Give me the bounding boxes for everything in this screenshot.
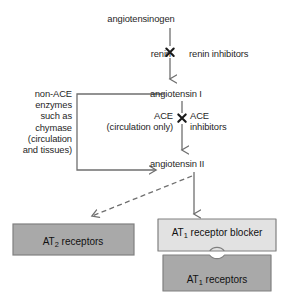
nonace-line-4: chymase [35, 122, 72, 133]
block-marker-ace-icon [178, 114, 185, 121]
nonace-line-3: such as [40, 110, 72, 121]
ace-inhibitors-line-1: ACE [190, 110, 209, 121]
node-angiotensinogen: angiotensinogen [0, 13, 282, 24]
nonace-line-6: and tissues) [23, 144, 72, 155]
node-angiotensin-2: angiotensin II [141, 158, 204, 169]
label-renin-enzyme: renin [86, 48, 171, 59]
label-at1-receptor-blocker: AT1 receptor blocker [158, 227, 276, 238]
nonace-line-2: enzymes [35, 99, 72, 110]
at2-prefix: AT [43, 236, 55, 247]
nonace-line-5: (circulation [28, 133, 72, 144]
label-at1-receptors: AT1 receptors [163, 274, 271, 285]
at1-suffix: receptors [203, 274, 247, 285]
diagram-canvas: angiotensinogen renin renin inhibitors a… [0, 0, 282, 301]
label-renin-inhibitors: renin inhibitors [189, 48, 248, 59]
nonace-line-1: non-ACE [35, 88, 72, 99]
at2-suffix: receptors [59, 236, 103, 247]
ace-enzyme-line-1: ACE [154, 110, 173, 121]
arrow-angiotensin2-to-at2-dashed [92, 176, 192, 216]
label-nonace-enzymes: non-ACE enzymes such as chymase (circula… [2, 88, 72, 155]
at1-blocker-prefix: AT [172, 227, 184, 238]
at1-blocker-suffix: receptor blocker [188, 227, 262, 238]
at1-blocker-subscript: 1 [184, 231, 188, 240]
label-ace-inhibitors: ACE inhibitors [190, 110, 227, 132]
box-at1-receptors [163, 255, 271, 291]
ace-inhibitors-line-2: inhibitors [190, 121, 227, 132]
at1-subscript: 1 [199, 278, 203, 287]
at1-prefix: AT [187, 274, 199, 285]
ace-enzyme-line-2: (circulation only) [107, 121, 173, 132]
label-ace-enzyme: ACE (circulation only) [78, 110, 173, 132]
at2-subscript: 2 [55, 240, 59, 249]
label-at2-receptors: AT2 receptors [13, 236, 133, 247]
node-angiotensin-1: angiotensin I [141, 88, 202, 99]
